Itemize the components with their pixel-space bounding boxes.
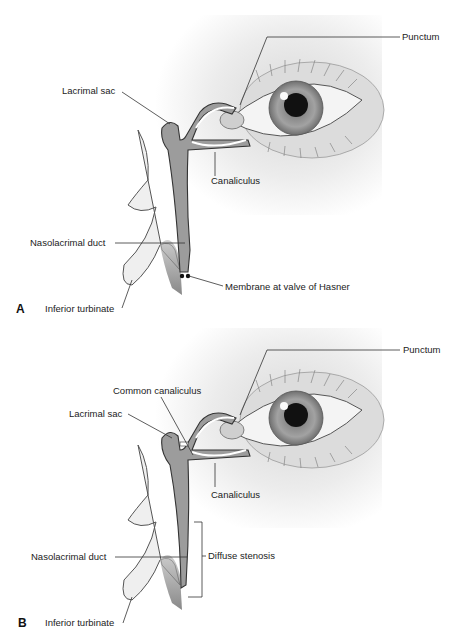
panel-letter-b: B xyxy=(18,616,27,630)
lacrimal-anatomy-illustration-a xyxy=(0,0,462,320)
nasal-cavity-shading xyxy=(160,555,182,610)
valve-of-hasner-membrane xyxy=(180,274,184,278)
label-nasolacrimal-duct: Nasolacrimal duct xyxy=(30,237,106,248)
label-canaliculus: Canaliculus xyxy=(211,175,260,186)
label-diffuse-stenosis: Diffuse stenosis xyxy=(208,550,275,561)
panel-a: Punctum Lacrimal sac Canaliculus Nasolac… xyxy=(0,0,462,320)
label-membrane-valve-of-hasner: Membrane at valve of Hasner xyxy=(225,281,350,292)
label-inferior-turbinate: Inferior turbinate xyxy=(45,617,114,628)
panel-b: Punctum Common canaliculus Lacrimal sac … xyxy=(0,320,462,637)
label-inferior-turbinate: Inferior turbinate xyxy=(45,303,114,314)
label-nasolacrimal-duct: Nasolacrimal duct xyxy=(31,551,107,562)
lacrimal-anatomy-illustration-b xyxy=(0,320,462,637)
panel-letter-a: A xyxy=(16,302,25,316)
label-lacrimal-sac: Lacrimal sac xyxy=(62,85,115,96)
eye-highlight xyxy=(280,402,288,410)
label-punctum: Punctum xyxy=(403,344,441,355)
label-canaliculus: Canaliculus xyxy=(211,489,260,500)
label-common-canaliculus: Common canaliculus xyxy=(113,385,201,396)
label-punctum: Punctum xyxy=(402,31,440,42)
label-lacrimal-sac: Lacrimal sac xyxy=(69,408,122,419)
eye-highlight xyxy=(280,92,288,100)
